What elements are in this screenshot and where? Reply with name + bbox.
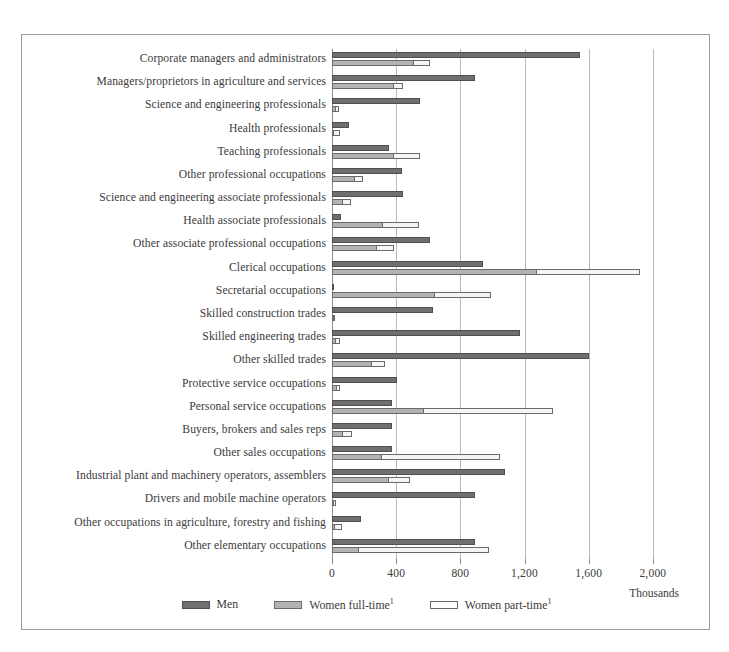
bar-men	[332, 330, 520, 336]
chart-frame: 04008001,2001,6002,000 Corporate manager…	[21, 34, 710, 630]
bar-men	[332, 98, 420, 104]
category-label: Science and engineering professionals	[26, 98, 326, 111]
category-label: Industrial plant and machinery operators…	[26, 469, 326, 482]
bar-women-full-time	[332, 199, 343, 205]
category-row: Drivers and mobile machine operators	[332, 492, 709, 515]
legend-swatch-women-part-time	[430, 601, 458, 609]
bar-men	[332, 145, 389, 151]
category-row: Science and engineering professionals	[332, 98, 709, 121]
bar-men	[332, 75, 475, 81]
bar-women-full-time	[332, 361, 372, 367]
bar-women-full-time	[332, 106, 336, 112]
category-row: Secretarial occupations	[332, 284, 709, 307]
bar-women-full-time	[332, 130, 334, 136]
category-row: Corporate managers and administrators	[332, 52, 709, 75]
category-row: Personal service occupations	[332, 400, 709, 423]
bar-men	[332, 377, 397, 383]
bar-men	[332, 469, 505, 475]
category-row: Other occupations in agriculture, forest…	[332, 516, 709, 539]
legend-swatch-men	[182, 601, 210, 609]
tick-label-1600: 1,600	[575, 567, 602, 579]
category-label: Secretarial occupations	[26, 284, 326, 297]
category-row: Other professional occupations	[332, 168, 709, 191]
bar-women-full-time	[332, 338, 336, 344]
category-label: Buyers, brokers and sales reps	[26, 423, 326, 436]
bar-men	[332, 400, 392, 406]
bar-women-full-time	[332, 83, 394, 89]
bar-women-full-time	[332, 477, 389, 483]
bar-men	[332, 516, 361, 522]
bar-men	[332, 168, 402, 174]
bar-men	[332, 446, 392, 452]
tick-label-800: 800	[451, 567, 469, 579]
category-label: Other professional occupations	[26, 168, 326, 181]
bar-men	[332, 122, 349, 128]
category-row: Health professionals	[332, 122, 709, 145]
bar-women-full-time	[332, 60, 414, 66]
bar-women-full-time	[332, 500, 334, 506]
category-row: Teaching professionals	[332, 145, 709, 168]
bar-men	[332, 237, 430, 243]
legend-item[interactable]: Women full-time1	[274, 597, 394, 613]
bar-women-full-time	[332, 292, 435, 298]
category-row: Health associate professionals	[332, 214, 709, 237]
bar-men	[332, 191, 403, 197]
category-label: Corporate managers and administrators	[26, 52, 326, 65]
category-label: Health associate professionals	[26, 214, 326, 227]
category-row: Protective service occupations	[332, 377, 709, 400]
plot-area: 04008001,2001,6002,000 Corporate manager…	[332, 49, 709, 559]
bar-women-full-time	[332, 454, 382, 460]
chart-legend: MenWomen full-time1Women part-time1	[22, 597, 711, 613]
bar-women-full-time	[332, 524, 335, 530]
bar-men	[332, 261, 483, 267]
bar-women-full-time	[332, 385, 337, 391]
bar-men	[332, 539, 475, 545]
bar-women-full-time	[332, 245, 377, 251]
bar-women-full-time	[332, 269, 537, 275]
category-row: Science and engineering associate profes…	[332, 191, 709, 214]
category-row: Other sales occupations	[332, 446, 709, 469]
category-row: Skilled construction trades	[332, 307, 709, 330]
category-label: Other associate professional occupations	[26, 237, 326, 250]
legend-item[interactable]: Women part-time1	[430, 597, 552, 613]
tick-label-1200: 1,200	[511, 567, 538, 579]
category-label: Health professionals	[26, 122, 326, 135]
category-label: Other sales occupations	[26, 446, 326, 459]
bar-women-full-time	[332, 153, 394, 159]
bar-men	[332, 307, 433, 313]
category-row: Skilled engineering trades	[332, 330, 709, 353]
category-row: Other elementary occupations	[332, 539, 709, 562]
category-label: Other elementary occupations	[26, 539, 326, 552]
category-row: Managers/proprietors in agriculture and …	[332, 75, 709, 98]
category-label: Clerical occupations	[26, 261, 326, 274]
category-label: Teaching professionals	[26, 145, 326, 158]
category-label: Managers/proprietors in agriculture and …	[26, 75, 326, 88]
tick-label-2000: 2,000	[639, 567, 666, 579]
bar-chart: 04008001,2001,6002,000 Corporate manager…	[22, 35, 711, 631]
legend-item[interactable]: Men	[182, 597, 239, 612]
bar-women-full-time	[332, 315, 334, 321]
category-label: Other occupations in agriculture, forest…	[26, 516, 326, 529]
bar-men	[332, 52, 580, 58]
bar-women-full-time	[332, 408, 424, 414]
category-label: Science and engineering associate profes…	[26, 191, 326, 204]
category-label: Protective service occupations	[26, 377, 326, 390]
bar-men	[332, 353, 589, 359]
category-label: Drivers and mobile machine operators	[26, 492, 326, 505]
category-label: Personal service occupations	[26, 400, 326, 413]
legend-swatch-women-full-time	[274, 601, 302, 609]
legend-label: Women part-time1	[465, 597, 552, 613]
bar-men	[332, 492, 475, 498]
bar-women-full-time	[332, 431, 343, 437]
category-row: Other associate professional occupations	[332, 237, 709, 260]
bar-men	[332, 423, 392, 429]
category-row: Other skilled trades	[332, 353, 709, 376]
bar-men	[332, 214, 341, 220]
bar-women-full-time	[332, 547, 359, 553]
bar-men	[332, 284, 334, 290]
category-row: Clerical occupations	[332, 261, 709, 284]
category-row: Buyers, brokers and sales reps	[332, 423, 709, 446]
tick-label-400: 400	[387, 567, 405, 579]
category-label: Skilled engineering trades	[26, 330, 326, 343]
category-row: Industrial plant and machinery operators…	[332, 469, 709, 492]
